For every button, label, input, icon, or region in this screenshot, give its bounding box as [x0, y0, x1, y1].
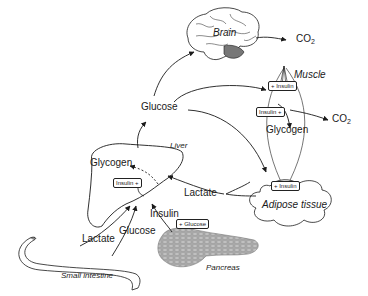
label-muscle: Muscle	[294, 70, 326, 80]
label-glycogen-muscle: Glycogen	[266, 125, 308, 135]
label-glucose-intestine: Glucose	[119, 226, 156, 236]
co2-subscript: 2	[311, 38, 315, 45]
label-glycogen-liver: Glycogen	[90, 158, 132, 168]
label-lactate-left: Lactate	[82, 234, 115, 244]
label-adipose-tissue: Adipose tissue	[262, 200, 327, 210]
pancreas-icon	[158, 228, 258, 267]
box-pancreas-plus-glucose: + Glucose	[176, 219, 209, 229]
box-muscle-insulin-plus: Insulin +	[256, 107, 285, 117]
label-insulin-pancreas: Insulin	[150, 209, 179, 219]
box-muscle-plus-insulin: + Insulin	[268, 81, 297, 91]
diagram-canvas: Brain CO2 Muscle + Insulin Insulin + CO2…	[0, 0, 368, 296]
label-glucose-center: Glucose	[141, 102, 178, 112]
co2-text: CO	[296, 33, 311, 44]
label-co2-brain: CO2	[296, 34, 315, 45]
label-pancreas: Pancreas	[206, 264, 240, 272]
small-intestine-icon	[19, 237, 140, 290]
label-lactate-right: Lactate	[184, 188, 217, 198]
co2-subscript: 2	[347, 118, 351, 125]
box-adipose-plus-insulin: + Insulin	[271, 181, 300, 191]
co2-text: CO	[332, 113, 347, 124]
label-small-intestine: Small intestine	[61, 272, 113, 280]
label-co2-muscle: CO2	[332, 114, 351, 125]
box-liver-insulin-plus: Insulin +	[113, 178, 142, 188]
label-liver: Liver	[170, 142, 187, 150]
label-brain: Brain	[213, 28, 236, 38]
